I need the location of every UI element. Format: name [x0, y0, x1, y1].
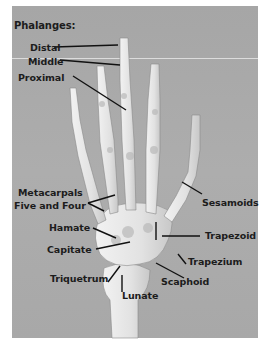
label-middle: Middle — [28, 56, 63, 67]
label-trapezoid: Trapezoid — [205, 230, 256, 241]
label-trapezium: Trapezium — [188, 256, 242, 267]
label-capitate: Capitate — [47, 244, 92, 255]
title-phalanges: Phalanges: — [14, 20, 75, 31]
label-triquetrum: Triquetrum — [50, 273, 108, 284]
label-distal: Distal — [30, 42, 60, 53]
label-metacarpals-five-and-four: Five and Four — [14, 200, 86, 211]
label-lunate: Lunate — [122, 290, 158, 301]
label-hamate: Hamate — [49, 222, 90, 233]
label-proximal: Proximal — [18, 72, 64, 83]
label-metacarpals: Metacarpals — [18, 187, 83, 198]
label-scaphoid: Scaphoid — [161, 276, 209, 287]
label-sesamoids: Sesamoids — [202, 197, 259, 208]
